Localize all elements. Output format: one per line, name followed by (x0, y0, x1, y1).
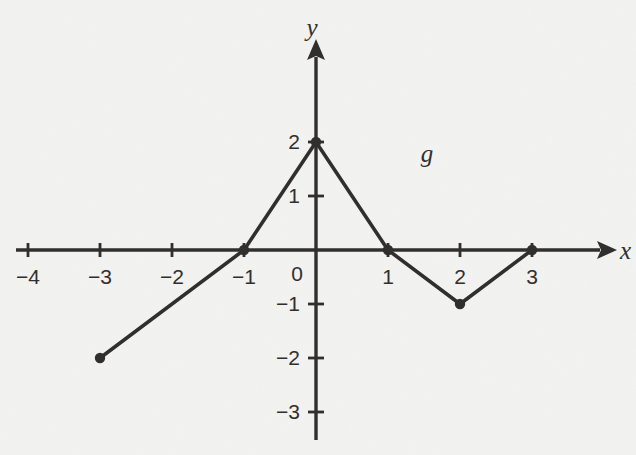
y-tick-label: 1 (288, 184, 300, 207)
function-graph-canvas: −4−3−2−112321−1−2−3 yx0g (0, 0, 636, 455)
x-tick-label: −1 (232, 265, 256, 288)
x-tick-label: 3 (526, 265, 538, 288)
curve-name-label: g (421, 140, 434, 167)
point-marker (95, 353, 105, 363)
point-marker (311, 137, 321, 147)
y-tick-label: −2 (276, 346, 300, 369)
origin-label: 0 (291, 262, 303, 285)
x-tick-label: 2 (454, 265, 466, 288)
paper-texture (0, 0, 636, 455)
y-tick-label: −1 (276, 292, 300, 315)
point-marker (383, 245, 393, 255)
y-axis-label: y (303, 14, 318, 41)
x-axis-label: x (619, 237, 631, 264)
point-marker (455, 299, 465, 309)
point-marker (239, 245, 249, 255)
y-tick-label: 2 (288, 130, 300, 153)
x-tick-label: 1 (382, 265, 394, 288)
point-marker (527, 245, 537, 255)
x-tick-label: −3 (88, 265, 112, 288)
y-tick-label: −3 (276, 400, 300, 423)
x-tick-label: −2 (160, 265, 184, 288)
scanned-figure-page: −4−3−2−112321−1−2−3 yx0g (0, 0, 636, 455)
x-tick-label: −4 (16, 265, 40, 288)
